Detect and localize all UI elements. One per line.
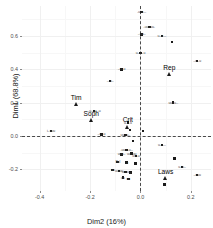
grid-line-horizontal-minor bbox=[22, 119, 211, 120]
point-label-micro: uu--u-- bbox=[121, 133, 130, 137]
point-label-micro: --uu-- bbox=[138, 32, 146, 36]
point-label-micro: u--u--- bbox=[158, 34, 167, 38]
point-label-named: Crit bbox=[123, 116, 133, 123]
data-point-square[interactable] bbox=[142, 130, 145, 133]
x-tick-label: 0.2 bbox=[187, 194, 195, 200]
grid-line-vertical bbox=[191, 6, 192, 191]
grid-line-horizontal-minor bbox=[22, 53, 211, 54]
point-label-named: Tim bbox=[71, 94, 82, 101]
data-point-square[interactable] bbox=[132, 140, 135, 143]
point-label-named: Laws bbox=[158, 168, 173, 175]
plot-panel: -u-u----uu--uu---uu--u--u---u--u--u--u--… bbox=[22, 6, 211, 191]
point-label-micro: uu bbox=[127, 177, 131, 181]
x-tick-label: -0.4 bbox=[35, 194, 44, 200]
point-label-micro: --uuu bbox=[193, 173, 200, 177]
x-tick-mark bbox=[191, 191, 192, 193]
y-tick-mark bbox=[20, 169, 22, 170]
x-tick-label: -0.2 bbox=[85, 194, 94, 200]
y-axis-label-wrap: Dim1 (68.8%) bbox=[2, 0, 12, 191]
point-label-micro: --u--u bbox=[118, 67, 126, 71]
y-tick-mark bbox=[20, 69, 22, 70]
point-label-micro: --u--u bbox=[193, 59, 201, 63]
x-tick-mark bbox=[90, 191, 91, 193]
point-label-micro: uu--u bbox=[132, 154, 139, 158]
scatter-plot-figure: -u-u----uu--uu---uu--u--u---u--u--u--u--… bbox=[0, 0, 213, 228]
data-point-triangle[interactable] bbox=[89, 118, 93, 122]
data-point-square[interactable] bbox=[163, 183, 166, 186]
grid-line-horizontal bbox=[22, 69, 211, 70]
data-point-square[interactable] bbox=[173, 157, 176, 160]
y-tick-label: -0.2 bbox=[0, 166, 18, 172]
grid-line-horizontal bbox=[22, 36, 211, 37]
point-label-micro: -u-u--- bbox=[137, 10, 146, 14]
point-label-micro: uuu-- bbox=[118, 152, 125, 156]
grid-line-horizontal bbox=[22, 103, 211, 104]
x-tick-label: 0.0 bbox=[137, 194, 145, 200]
point-label-micro: ---u-- bbox=[107, 79, 114, 83]
point-label-micro: -uu--uu- bbox=[144, 25, 155, 29]
point-label-micro: u------ bbox=[158, 143, 166, 147]
point-label-micro: u--u-- bbox=[178, 165, 186, 169]
reference-line-horizontal bbox=[22, 136, 211, 137]
point-label-micro: u bbox=[129, 171, 131, 175]
data-point-square[interactable] bbox=[171, 41, 174, 44]
y-tick-mark bbox=[20, 103, 22, 104]
point-label-micro: --u--u bbox=[98, 132, 106, 136]
point-label-micro: Pol bbox=[115, 160, 120, 164]
point-label-micro: uu--u-- bbox=[168, 101, 177, 105]
point-label-micro: uu bbox=[121, 176, 125, 180]
point-label-micro: -u bbox=[125, 161, 128, 165]
point-label-named: Rep bbox=[163, 64, 175, 71]
x-tick-mark bbox=[40, 191, 41, 193]
point-label-named: Soph bbox=[84, 110, 99, 117]
grid-line-vertical bbox=[90, 6, 91, 191]
y-tick-mark bbox=[20, 136, 22, 137]
point-label-micro: uuuu bbox=[122, 170, 129, 174]
y-tick-label: 0.6 bbox=[0, 33, 18, 39]
y-tick-label: 0.4 bbox=[0, 66, 18, 72]
data-point-square[interactable] bbox=[129, 129, 132, 132]
grid-line-horizontal-minor bbox=[22, 153, 211, 154]
data-point-triangle[interactable] bbox=[74, 102, 78, 106]
x-axis-label: Dim2 (16%) bbox=[0, 217, 213, 226]
y-tick-mark bbox=[20, 36, 22, 37]
point-label-micro: u--u--u bbox=[136, 51, 145, 55]
grid-line-horizontal-minor bbox=[22, 19, 211, 20]
grid-line-vertical-minor bbox=[65, 6, 66, 191]
data-point-triangle[interactable] bbox=[163, 176, 167, 180]
x-tick-mark bbox=[140, 191, 141, 193]
data-point-square[interactable] bbox=[134, 162, 137, 165]
point-label-micro: i--uuu bbox=[47, 129, 55, 133]
grid-line-vertical bbox=[40, 6, 41, 191]
data-point-triangle[interactable] bbox=[125, 125, 129, 129]
y-axis-label: Dim1 (68.8%) bbox=[11, 51, 20, 141]
data-point-triangle[interactable] bbox=[167, 72, 171, 76]
y-tick-label: 0.0 bbox=[0, 133, 18, 139]
grid-line-horizontal-minor bbox=[22, 86, 211, 87]
y-tick-label: 0.2 bbox=[0, 100, 18, 106]
